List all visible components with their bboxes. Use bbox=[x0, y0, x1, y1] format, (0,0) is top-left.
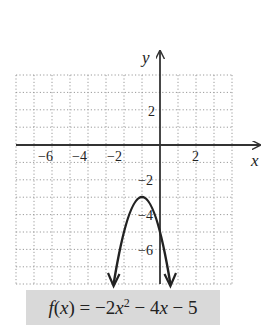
x-tick-label: −4 bbox=[72, 149, 87, 164]
y-tick-label: −4 bbox=[138, 208, 153, 223]
eq-var: x bbox=[159, 297, 167, 318]
x-tick-label: −2 bbox=[107, 149, 122, 164]
y-tick-label: 2 bbox=[148, 104, 155, 119]
equation-label: f(x) = −2x2 − 4x − 5 bbox=[26, 290, 220, 325]
x-tick-label: −6 bbox=[38, 149, 53, 164]
y-tick-label: −6 bbox=[138, 243, 153, 258]
y-axis-label: y bbox=[140, 48, 150, 67]
y-tick-label: −2 bbox=[138, 173, 153, 188]
eq-part: ) = −2 bbox=[68, 297, 115, 318]
graph-canvas: x y −6 −4 −2 2 2 −2 −4 −6 bbox=[0, 0, 277, 334]
eq-part: − 5 bbox=[168, 297, 198, 318]
x-tick-label: 2 bbox=[192, 149, 199, 164]
eq-part: − 4 bbox=[130, 297, 160, 318]
grid bbox=[16, 75, 232, 284]
eq-var: x bbox=[115, 297, 123, 318]
equation-text: f(x) = −2x2 − 4x − 5 bbox=[48, 296, 197, 319]
x-axis-label: x bbox=[250, 151, 259, 170]
